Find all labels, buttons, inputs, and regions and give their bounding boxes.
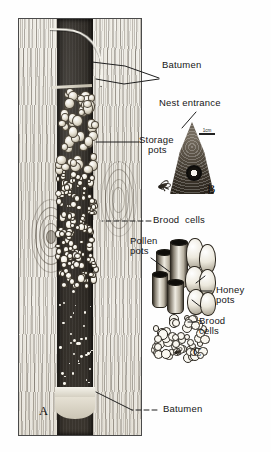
panel-b-nest-entrance (152, 120, 236, 206)
panel-letter-a: A (39, 404, 48, 419)
cavity-speck (59, 346, 62, 349)
cavity-speck (73, 353, 75, 355)
panel-letter-c: C (193, 345, 201, 360)
cell-blob (91, 204, 97, 210)
cavity-speck (85, 337, 88, 340)
brood-cell (154, 343, 162, 351)
cell-blob (73, 261, 80, 268)
panel-letter-b: B (207, 182, 215, 197)
cavity-speck (91, 350, 93, 352)
cell-blob (77, 180, 83, 186)
cavity-speck (86, 379, 87, 380)
cavity-speck (72, 290, 75, 293)
cell-blob (56, 248, 62, 255)
cavity-speck (70, 333, 72, 335)
cavity-speck (70, 342, 72, 344)
cell-blob (61, 173, 66, 178)
cell-blob (89, 198, 95, 204)
cavity-speck (64, 376, 65, 377)
label-storage-pots-line2: pots (148, 145, 167, 156)
pollen-pot (152, 272, 168, 308)
cavity-speck (62, 322, 65, 325)
label-batumen-bottom: Batumen (163, 404, 202, 415)
brood-cell (161, 349, 171, 359)
panel-a-trunk-section: A 1cm (18, 18, 142, 436)
cell-blob (68, 240, 74, 247)
cavity-speck (78, 363, 80, 365)
cavity-speck (87, 352, 90, 355)
wood-knot-icon (112, 187, 125, 213)
cell-blob (65, 231, 72, 237)
label-honey-pots-line2: pots (216, 295, 235, 306)
cell-blob (87, 227, 93, 234)
figure-canvas: A 1cm 1cm B (0, 0, 271, 452)
cell-blob (58, 120, 66, 127)
label-brood-cells-c-line2: cells (199, 326, 219, 337)
label-brood-cells-a: Brood cells (153, 215, 205, 226)
cell-blob (72, 115, 83, 127)
cavity-speck (72, 372, 74, 374)
cell-blob (60, 271, 65, 277)
cavity-speck (61, 372, 64, 375)
cell-blob (84, 136, 93, 147)
cell-blob (61, 240, 66, 245)
label-batumen-top: Batumen (162, 60, 201, 71)
scale-bar-panel-b: 1cm (199, 128, 215, 135)
brood-cell (172, 319, 180, 327)
label-pollen-pots-line2: pots (130, 246, 149, 257)
cell-blob (67, 213, 73, 220)
cell-blob (84, 283, 89, 289)
cell-blob (70, 201, 77, 208)
entrance-hole-icon (186, 165, 202, 181)
cavity-speck (78, 342, 81, 345)
pollen-pot (167, 280, 184, 314)
cavity-speck (84, 311, 86, 313)
batumen-bottom-curve (55, 397, 95, 419)
label-nest-entrance: Nest entrance (159, 98, 221, 109)
scale-bar-rule (199, 133, 215, 135)
cell-blob (61, 262, 67, 268)
cavity-speck (63, 382, 66, 385)
cavity-speck (80, 338, 82, 340)
honey-pot (200, 292, 216, 316)
cell-blob (56, 198, 62, 205)
cavity-speck (59, 304, 61, 306)
cell-blob (91, 121, 99, 129)
cell-blob (91, 261, 96, 266)
cavity-speck (90, 306, 91, 307)
cell-blob (89, 211, 95, 216)
cell-blob (64, 98, 75, 109)
cell-blob (67, 253, 73, 259)
cell-blob (82, 186, 87, 191)
